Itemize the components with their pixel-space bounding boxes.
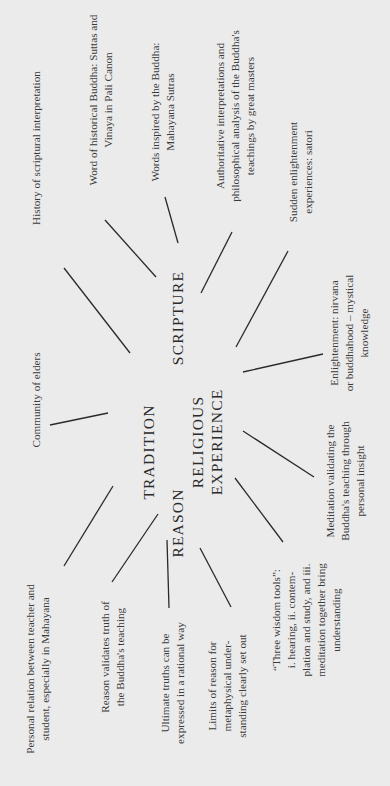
leaf-history: History of scriptural interpretation	[30, 71, 42, 225]
svg-text:Meditation validating the: Meditation validating the	[324, 424, 336, 537]
leaf-enlightenment: Enlightenment: nirvana or buddhahood – m…	[328, 275, 370, 392]
svg-text:Vinaya in Pali Canon: Vinaya in Pali Canon	[102, 52, 114, 148]
edge-tradition-history	[64, 268, 130, 353]
leaf-meditation: Meditation validating the Buddha's teach…	[324, 421, 366, 541]
svg-text:understanding: understanding	[330, 588, 342, 652]
svg-text:student, especially in Mahaya: student, especially in Mahayana	[39, 597, 51, 741]
svg-text:Personal relation between teac: Personal relation between teacher and	[24, 584, 36, 754]
svg-text:Sudden enlightenment: Sudden enlightenment	[287, 121, 299, 222]
concept-map: TRADITION SCRIPTURE RELIGIOUS EXPERIENCE…	[0, 0, 390, 786]
svg-text:metaphysical under-: metaphysical under-	[221, 640, 233, 731]
svg-text:knowledge: knowledge	[358, 308, 370, 357]
edge-scripture-authoritative	[201, 232, 232, 293]
svg-text:the Buddha's teaching: the Buddha's teaching	[114, 607, 126, 706]
svg-text:Mahayana Sutras: Mahayana Sutras	[164, 73, 176, 150]
svg-text:Words inspired by the Buddha:: Words inspired by the Buddha:	[149, 43, 161, 182]
edge-experience-satori	[236, 251, 288, 347]
svg-text:Limits of reason for: Limits of reason for	[206, 641, 218, 730]
edge-experience-meditation	[243, 431, 314, 477]
svg-text:Word of historical Buddha: Sut: Word of historical Buddha: Suttas and	[87, 14, 99, 185]
leaf-authoritative: Authoritative interpretations and philos…	[214, 30, 256, 202]
svg-text:i. hearing, ii. contem-: i. hearing, ii. contem-	[285, 572, 297, 669]
leaf-three-tools: “Three wisdom tools”: i. hearing, ii. co…	[270, 563, 342, 677]
svg-text:Community of elders: Community of elders	[30, 352, 42, 447]
leaf-limits: Limits of reason for metaphysical under-…	[206, 633, 248, 737]
edge-experience-three-tools	[235, 478, 283, 542]
svg-text:Enlightenment: nirvana: Enlightenment: nirvana	[328, 280, 340, 385]
svg-text:or buddhahood – mystical: or buddhahood – mystical	[343, 275, 355, 392]
svg-text:Buddha's teaching through: Buddha's teaching through	[339, 421, 351, 541]
hub-religious: RELIGIOUS	[189, 396, 206, 489]
svg-text:meditation together bring: meditation together bring	[315, 563, 327, 677]
svg-text:teachings by great masters: teachings by great masters	[244, 57, 256, 175]
leaf-satori: Sudden enlightenment experiences: satori	[287, 121, 314, 222]
edge-scripture-historical-buddha	[105, 220, 156, 277]
edges	[50, 197, 323, 608]
svg-text:plation and study, and iii.: plation and study, and iii.	[300, 563, 312, 676]
leaves: History of scriptural interpretation Wor…	[24, 14, 370, 754]
edge-reason-limits	[200, 548, 231, 607]
svg-text:experiences: satori: experiences: satori	[302, 130, 314, 214]
edge-scripture-inspired	[165, 197, 178, 243]
hub-scripture: SCRIPTURE	[169, 271, 186, 365]
edge-tradition-personal	[64, 486, 113, 566]
leaf-community: Community of elders	[30, 352, 42, 447]
leaf-historical-buddha: Word of historical Buddha: Suttas and Vi…	[87, 14, 114, 185]
svg-text:standing clearly set out: standing clearly set out	[236, 633, 248, 737]
diagram-canvas: TRADITION SCRIPTURE RELIGIOUS EXPERIENCE…	[0, 0, 390, 786]
svg-text:Reason validates truth of: Reason validates truth of	[99, 601, 111, 713]
svg-text:philosophical analysis of the: philosophical analysis of the Buddha's	[229, 30, 241, 202]
svg-text:History of scriptural interpre: History of scriptural interpretation	[30, 71, 42, 225]
leaf-reason-validates: Reason validates truth of the Buddha's t…	[99, 601, 126, 713]
svg-text:personal insight: personal insight	[354, 445, 366, 517]
svg-text:Ultimate truths can be: Ultimate truths can be	[159, 633, 171, 732]
svg-text:“Three wisdom tools”:: “Three wisdom tools”:	[270, 569, 282, 671]
leaf-personal-relation: Personal relation between teacher and st…	[24, 584, 51, 754]
svg-text:expressed in a rational way: expressed in a rational way	[174, 622, 186, 744]
svg-text:Authoritative interpretations: Authoritative interpretations and	[214, 43, 226, 189]
leaf-inspired: Words inspired by the Buddha: Mahayana S…	[149, 43, 176, 182]
hubs: TRADITION SCRIPTURE RELIGIOUS EXPERIENCE…	[140, 271, 225, 558]
edge-tradition-community	[50, 413, 108, 425]
edge-reason-validates	[112, 514, 158, 582]
hub-tradition: TRADITION	[140, 404, 157, 499]
hub-experience: EXPERIENCE	[208, 389, 225, 496]
edge-experience-enlightenment	[243, 354, 323, 372]
leaf-ultimate-truths: Ultimate truths can be expressed in a ra…	[159, 622, 186, 744]
hub-reason: REASON	[169, 488, 186, 557]
